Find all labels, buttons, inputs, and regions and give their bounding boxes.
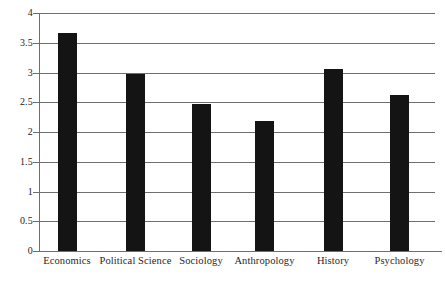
y-tick-mark xyxy=(33,73,39,74)
category-label: Psychology xyxy=(355,255,445,267)
bar xyxy=(58,33,77,251)
bars-layer xyxy=(0,13,445,251)
y-tick-mark xyxy=(33,13,39,14)
y-tick-mark xyxy=(33,221,39,222)
x-axis-line xyxy=(33,251,442,252)
bar xyxy=(390,95,409,251)
y-tick-mark xyxy=(33,192,39,193)
bar xyxy=(192,104,211,251)
bar-chart-figure: 43.532.521.510.50 EconomicsPolitical Sci… xyxy=(0,0,445,284)
bar xyxy=(324,69,343,251)
y-tick-mark xyxy=(33,43,39,44)
y-tick-mark xyxy=(33,102,39,103)
y-tick-mark xyxy=(33,162,39,163)
bar xyxy=(126,74,145,251)
y-tick-mark xyxy=(33,251,39,252)
bar xyxy=(255,121,274,251)
y-tick-mark xyxy=(33,132,39,133)
